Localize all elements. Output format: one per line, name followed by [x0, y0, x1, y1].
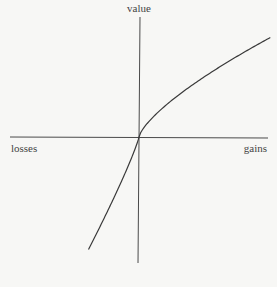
value-curve-gains: [139, 38, 270, 137]
y-axis-label: value: [127, 2, 151, 14]
x-axis-label-gains: gains: [244, 142, 267, 154]
value-curve-losses: [89, 137, 140, 250]
value-function-diagram: value losses gains: [0, 0, 277, 287]
x-axis-label-losses: losses: [11, 142, 37, 154]
plot-canvas: value losses gains: [0, 0, 277, 287]
